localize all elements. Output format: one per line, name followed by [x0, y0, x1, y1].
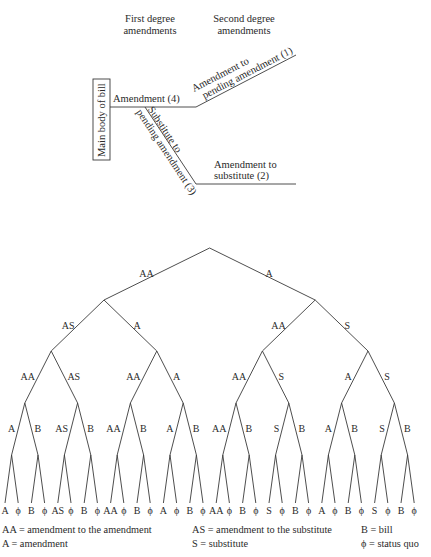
tree-branch-level5 — [302, 455, 309, 503]
tree-branch-level5 — [38, 455, 45, 503]
tree-leaf-outcome: ϕ — [121, 505, 126, 516]
amendment-4-label: Amendment (4) — [113, 93, 180, 105]
voting-tree-labels: AAAASAAASAAASAAAAASASABASBAABABAABSBABSB… — [1, 268, 416, 516]
amendment-procedure-figure: First degree amendments Second degree am… — [0, 0, 431, 557]
tree-leaf-outcome: ϕ — [227, 505, 232, 516]
tree-branch-level1 — [104, 248, 210, 300]
legend-a: A = amendment — [2, 538, 68, 549]
tree-leaf-outcome: ϕ — [95, 505, 100, 516]
header-first-degree-line1: First degree — [125, 13, 175, 24]
tree-branch-label: AA — [232, 371, 247, 382]
tree-branch-label: B — [351, 423, 358, 434]
tree-leaf-outcome: B — [186, 505, 193, 516]
tree-branch-label: S — [274, 423, 280, 434]
tree-branch-level5 — [163, 455, 170, 503]
tree-leaf-outcome: AA — [103, 505, 118, 516]
header-second-degree-line1: Second degree — [213, 13, 275, 24]
tree-leaf-outcome: B — [28, 505, 35, 516]
tree-branch-level5 — [381, 455, 388, 503]
tree-leaf-outcome: ϕ — [359, 505, 364, 516]
tree-leaf-outcome: B — [292, 505, 299, 516]
tree-branch-level5 — [170, 455, 177, 503]
tree-branch-level2 — [315, 300, 368, 351]
tree-leaf-outcome: AS — [51, 505, 64, 516]
tree-leaf-outcome: A — [160, 505, 168, 516]
tree-branch-level5 — [84, 455, 91, 503]
tree-leaf-outcome: ϕ — [280, 505, 285, 516]
tree-branch-level5 — [348, 455, 355, 503]
tree-branch-level5 — [401, 455, 408, 503]
tree-leaf-outcome: ϕ — [306, 505, 311, 516]
tree-branch-label: B — [246, 423, 253, 434]
header-first-degree-line2: amendments — [123, 25, 176, 36]
tree-branch-level3 — [368, 351, 394, 403]
header-second-degree-line2: amendments — [217, 25, 270, 36]
tree-leaf-outcome: B — [239, 505, 246, 516]
tree-branch-level5 — [31, 455, 38, 503]
tree-branch-label: A — [8, 423, 16, 434]
legend-s: S = substitute — [192, 538, 249, 549]
tree-branch-level5 — [111, 455, 118, 503]
tree-branch-label: A — [166, 423, 174, 434]
tree-branch-level5 — [5, 455, 12, 503]
tree-branch-level2 — [51, 300, 104, 351]
tree-leaf-outcome: ϕ — [200, 505, 205, 516]
tree-branch-label: AS — [67, 371, 80, 382]
amend-substitute-label-line1: Amendment to — [214, 159, 277, 170]
tree-branch-label: B — [34, 423, 41, 434]
tree-branch-level5 — [117, 455, 124, 503]
tree-branch-label: B — [87, 423, 94, 434]
tree-leaf-outcome: A — [318, 505, 326, 516]
tree-branch-level5 — [295, 455, 302, 503]
tree-branch-level5 — [269, 455, 276, 503]
main-body-label: Main body of bill — [96, 83, 107, 157]
procedure-diagram: First degree amendments Second degree am… — [93, 13, 296, 198]
tree-branch-label: AS — [55, 423, 68, 434]
tree-leaf-outcome: ϕ — [412, 505, 417, 516]
tree-branch-level5 — [137, 455, 144, 503]
tree-leaf-outcome: A — [1, 505, 9, 516]
tree-branch-level5 — [58, 455, 65, 503]
tree-leaf-outcome: B — [345, 505, 352, 516]
tree-branch-level5 — [12, 455, 19, 503]
tree-branch-label: B — [140, 423, 147, 434]
tree-branch-level5 — [375, 455, 382, 503]
tree-leaf-outcome: ϕ — [385, 505, 390, 516]
tree-branch-label: S — [345, 320, 351, 331]
tree-branch-label: S — [379, 423, 385, 434]
tree-branch-level1 — [210, 248, 316, 300]
tree-leaf-outcome: ϕ — [68, 505, 73, 516]
tree-branch-label: AS — [62, 320, 75, 331]
legend-as: AS = amendment to the substitute — [192, 524, 332, 535]
tree-branch-level5 — [190, 455, 197, 503]
tree-leaf-outcome: ϕ — [253, 505, 258, 516]
tree-leaf-outcome: ϕ — [148, 505, 153, 516]
tree-leaf-outcome: ϕ — [174, 505, 179, 516]
tree-branch-label: AA — [271, 320, 286, 331]
tree-branch-level5 — [223, 455, 230, 503]
tree-branch-level3 — [262, 351, 288, 403]
tree-branch-label: A — [173, 371, 181, 382]
tree-branch-level5 — [328, 455, 335, 503]
tree-branch-level2 — [262, 300, 315, 351]
tree-branch-label: A — [133, 320, 141, 331]
legend: AA = amendment to the amendment A = amen… — [2, 524, 419, 549]
tree-branch-level5 — [216, 455, 223, 503]
legend-aa: AA = amendment to the amendment — [2, 524, 152, 535]
tree-leaf-outcome: ϕ — [332, 505, 337, 516]
tree-leaf-outcome: ϕ — [16, 505, 21, 516]
tree-leaf-outcome: B — [398, 505, 405, 516]
tree-branch-label: AA — [106, 423, 121, 434]
tree-branch-label: S — [384, 371, 390, 382]
tree-leaf-outcome: B — [134, 505, 141, 516]
tree-branch-label: S — [279, 371, 285, 382]
legend-phi: ϕ = status quo — [361, 538, 419, 549]
tree-branch-label: B — [404, 423, 411, 434]
tree-branch-label: AA — [21, 371, 36, 382]
voting-tree-branches — [5, 248, 414, 503]
tree-branch-label: A — [345, 371, 353, 382]
tree-branch-level5 — [276, 455, 283, 503]
tree-branch-level5 — [249, 455, 256, 503]
tree-leaf-outcome: AA — [209, 505, 224, 516]
tree-branch-label: A — [265, 268, 273, 279]
